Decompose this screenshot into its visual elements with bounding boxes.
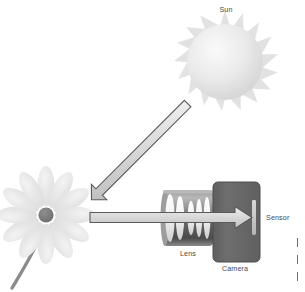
cropped-glyph-stem xyxy=(297,272,298,281)
flower-center xyxy=(38,207,53,222)
figure-canvas: Sun Lens Camera Sensor xyxy=(0,0,305,292)
flower-graphic xyxy=(0,166,95,288)
label-camera: Camera xyxy=(222,265,248,272)
cropped-glyph-stem xyxy=(297,238,298,247)
cropped-glyph-stem xyxy=(297,255,298,264)
sun-disc xyxy=(187,24,263,100)
cropped-text-fragments xyxy=(293,237,305,289)
sun-to-flower-arrow xyxy=(91,100,190,199)
sun-graphic xyxy=(174,10,278,111)
lens-barrel-highlight xyxy=(163,190,213,193)
label-lens: Lens xyxy=(180,250,196,257)
diagram-illustration xyxy=(0,0,305,292)
label-sensor: Sensor xyxy=(266,214,289,221)
label-sun: Sun xyxy=(219,6,232,13)
